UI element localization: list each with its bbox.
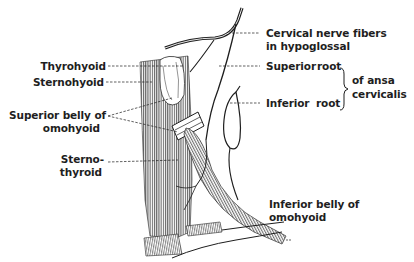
hypoglossal-nerve: [165, 8, 242, 48]
brace: [340, 68, 348, 110]
label-thyrohyoid: Thyrohyoid: [20, 60, 106, 72]
label-cervical-nerve-2: in hypoglossal: [266, 40, 350, 52]
label-inferior-belly-1: Inferior belly of: [269, 198, 359, 210]
label-cervical-nerve-1: Cervical nerve fibers: [266, 27, 387, 39]
label-ansa-2: cervicalis: [352, 88, 407, 100]
thyrohyoid-muscle: [160, 56, 185, 105]
anatomy-diagram: Thyrohyoid Sternohyoid Superior belly of…: [0, 0, 414, 262]
label-sternohyoid: Sternohyoid: [10, 76, 104, 88]
label-superior-root: Superior: [266, 60, 316, 72]
label-superior-belly-2: omohyoid: [0, 122, 100, 134]
label-ansa-1: of ansa: [352, 74, 395, 86]
label-superior-root-word: root: [317, 60, 341, 72]
label-inferior-belly-2: omohyoid: [269, 211, 326, 223]
label-sternothyroid-1: Sterno-: [40, 153, 104, 165]
label-sternothyroid-2: thyroid: [40, 166, 102, 178]
label-inferior-root-word: root: [316, 97, 340, 109]
label-superior-belly-1: Superior belly of: [0, 109, 106, 121]
label-inferior-root: Inferior: [266, 97, 309, 109]
